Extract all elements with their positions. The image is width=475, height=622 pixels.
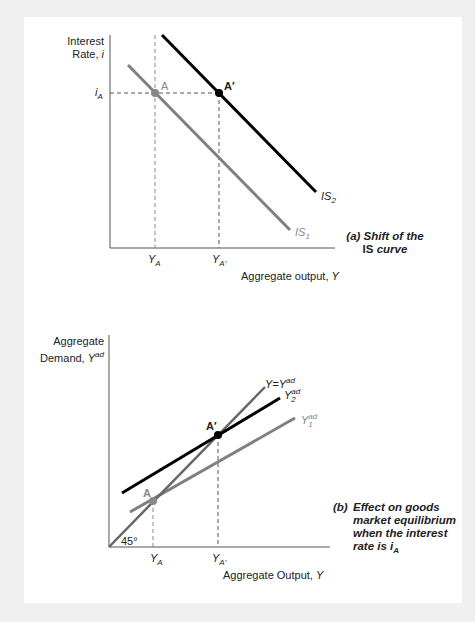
xtick-ya-bottom: YA — [150, 552, 163, 569]
caption-b-line2: market equilibrium — [353, 514, 463, 527]
ytick-ia: iA — [95, 86, 103, 103]
ylabel-b-line1: Aggregate — [30, 335, 104, 348]
xtick-ya-prime-bottom: YA′ — [212, 552, 226, 569]
caption-b-line1: Effect on goods — [353, 501, 463, 514]
caption-b-prefix: (b) — [333, 501, 348, 514]
bottom-x-axis-label: Aggregate Output, Y — [223, 569, 323, 582]
xtick-ya: YA — [148, 253, 161, 270]
angle-45-label: 45° — [121, 535, 138, 548]
ylabel-line1: Interest — [50, 35, 104, 48]
is1-curve — [128, 65, 290, 230]
point-a-prime-label: A′ — [224, 80, 235, 93]
is2-label: IS2 — [321, 190, 336, 207]
is1-label: IS1 — [295, 226, 310, 243]
point-a-label-bottom: A — [143, 487, 151, 500]
caption-a: (a) Shift of the IS curve — [330, 230, 440, 256]
point-a-marker — [151, 89, 159, 97]
line-45-degree — [109, 387, 265, 547]
goods-market-chart — [109, 335, 330, 547]
caption-b-body: Effect on goods market equilibrium when … — [353, 501, 463, 557]
point-a-prime-marker — [215, 89, 223, 97]
bottom-y-axis-label: Aggregate Demand, Yad — [30, 335, 104, 365]
y1ad-label: Yad1 — [301, 413, 317, 429]
ylabel-line2: Rate, i — [50, 48, 104, 61]
y2ad-label: Yad2 — [284, 388, 300, 404]
point-a-prime-label-bottom: A′ — [206, 420, 217, 433]
point-a-label: A — [161, 80, 168, 93]
caption-b-line3: when the interest — [353, 527, 463, 540]
ylabel-b-line2: Demand, Yad — [30, 348, 104, 365]
xtick-ya-prime: YA′ — [212, 253, 226, 270]
top-x-axis-label: Aggregate output, Y — [241, 270, 339, 283]
is-shift-chart — [110, 35, 335, 248]
is2-curve — [162, 35, 316, 192]
caption-a-line1: (a) Shift of the — [330, 230, 440, 243]
caption-a-line2: IS curve — [330, 243, 440, 256]
top-y-axis-label: Interest Rate, i — [50, 35, 104, 61]
caption-b-line4: rate is iA — [353, 540, 463, 557]
caption-b: (b) Effect on goods market equilibrium w… — [333, 501, 463, 557]
y2ad-line — [122, 398, 280, 493]
